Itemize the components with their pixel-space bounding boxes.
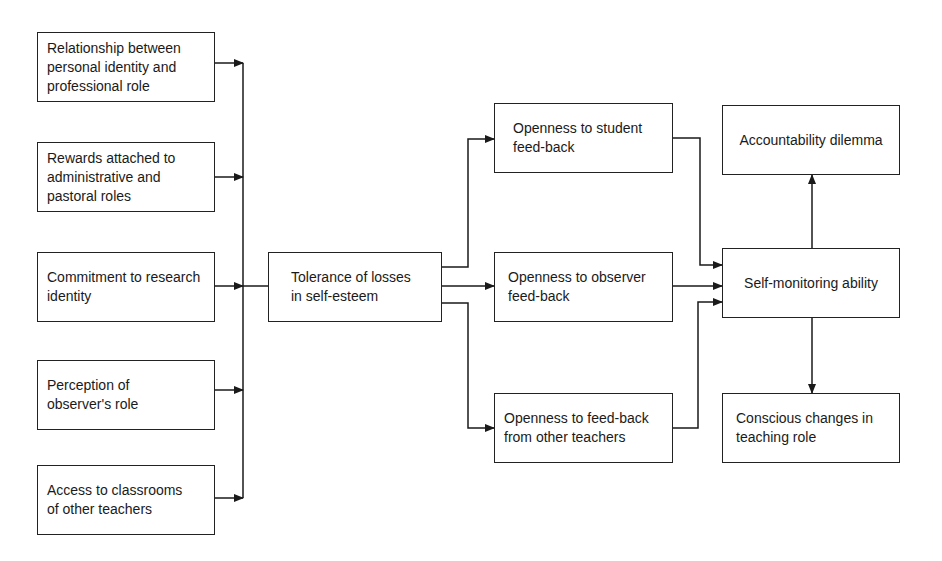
box-tolerance: Tolerance of losses in self-esteem [268, 252, 442, 322]
box-label: Openness to student feed-back [513, 119, 642, 157]
box-relationship: Relationship between personal identity a… [37, 32, 215, 102]
box-accountability: Accountability dilemma [722, 105, 900, 175]
box-label: Rewards attached to administrative and p… [47, 149, 175, 206]
box-openness-observer: Openness to observer feed-back [494, 252, 673, 322]
box-label: Relationship between personal identity a… [47, 39, 181, 96]
box-label: Openness to observer feed-back [508, 268, 646, 306]
box-label: Self-monitoring ability [744, 274, 878, 293]
arrow-student-to-monitoring [673, 138, 722, 265]
box-label: Openness to feed-back from other teacher… [504, 409, 649, 447]
box-label: Commitment to research identity [47, 268, 200, 306]
box-label: Perception of observer's role [47, 376, 138, 414]
box-openness-student: Openness to student feed-back [494, 103, 673, 173]
arrow-teachers-to-monitoring [673, 302, 722, 428]
box-label: Conscious changes in teaching role [736, 409, 873, 447]
arrow-to-teachers [442, 303, 494, 428]
box-label: Tolerance of losses in self-esteem [291, 268, 411, 306]
box-self-monitoring: Self-monitoring ability [722, 248, 900, 318]
box-commitment: Commitment to research identity [37, 252, 215, 322]
box-label: Accountability dilemma [739, 131, 882, 150]
box-label: Access to classrooms of other teachers [47, 481, 182, 519]
box-access: Access to classrooms of other teachers [37, 465, 215, 535]
box-rewards: Rewards attached to administrative and p… [37, 142, 215, 212]
box-conscious-changes: Conscious changes in teaching role [722, 393, 900, 463]
arrow-to-student [442, 139, 494, 267]
box-perception: Perception of observer's role [37, 360, 215, 430]
box-openness-teachers: Openness to feed-back from other teacher… [494, 393, 673, 463]
